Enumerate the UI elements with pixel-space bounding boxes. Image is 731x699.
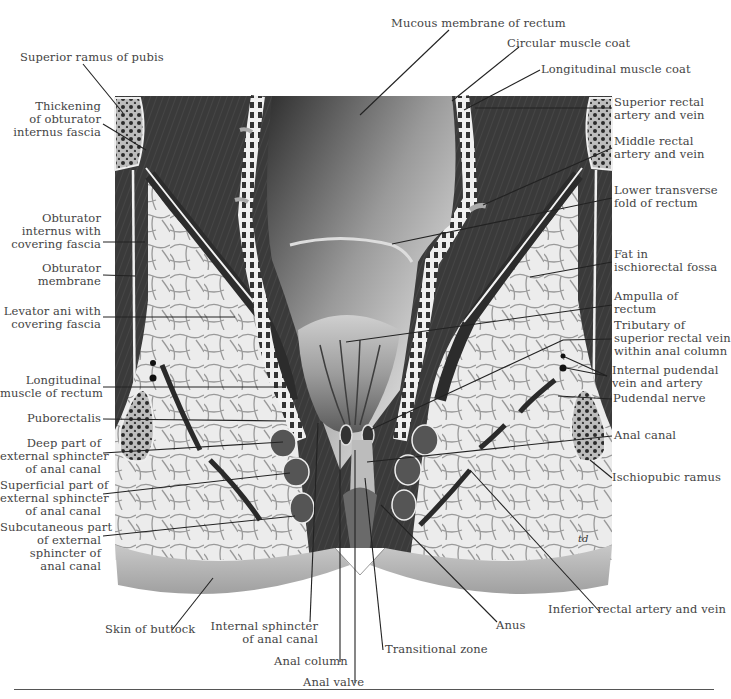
label-skin-of-buttock: Skin of buttock (105, 623, 195, 636)
label-superior-rectal-artery-vein: Superior rectal artery and vein (614, 96, 705, 122)
label-line: Anal canal (614, 429, 676, 442)
label-line: covering fascia (0, 238, 101, 251)
label-line: Puborectalis (0, 412, 101, 425)
label-line: of anal canal (0, 463, 101, 476)
label-line: artery and vein (614, 109, 705, 122)
label-ampulla-of-rectum: Ampulla of rectum (614, 290, 678, 316)
left-pudendal-vessel-1 (150, 360, 156, 366)
label-ischiopubic-ramus: Ischiopubic ramus (612, 471, 721, 484)
label-line: Longitudinal muscle coat (541, 63, 691, 76)
label-line: Circular muscle coat (507, 37, 630, 50)
label-line: Superior ramus of pubis (20, 51, 230, 64)
left-anal-column-vein (340, 425, 352, 445)
label-line: Inferior rectal artery and vein (548, 603, 726, 616)
label-puborectalis: Puborectalis (0, 412, 101, 425)
label-line: anal canal (0, 560, 101, 573)
right-pudendal-vessel-2 (560, 365, 567, 372)
label-levator-ani: Levator ani with covering fascia (0, 305, 101, 331)
label-internal-sphincter: Internal sphincter of anal canal (210, 620, 318, 646)
right-subcutaneous-sphincter (392, 490, 416, 520)
label-anal-canal: Anal canal (614, 429, 676, 442)
label-line: membrane (0, 275, 101, 288)
right-pudendal-vessel-1 (561, 354, 566, 359)
leader-circular-muscle (452, 47, 519, 101)
label-subcutaneous-external-sphincter: Subcutaneous part of external sphincter … (0, 521, 101, 573)
bottom-divider-rule (14, 689, 714, 690)
label-line: Pudendal nerve (613, 392, 706, 405)
label-line: of anal canal (210, 633, 318, 646)
anal-canal (350, 440, 375, 495)
label-line: internus fascia (0, 126, 101, 139)
left-superficial-sphincter (283, 458, 309, 486)
label-mucous-membrane-of-rectum: Mucous membrane of rectum (391, 17, 566, 30)
artist-signature: td (578, 533, 588, 544)
left-subcutaneous-sphincter (290, 493, 314, 523)
label-lower-transverse-fold: Lower transverse fold of rectum (614, 184, 718, 210)
label-internal-pudendal-vein-artery: Internal pudendal vein and artery (612, 364, 718, 390)
label-line: Mucous membrane of rectum (391, 17, 566, 30)
label-obturator-internus: Obturator internus with covering fascia (0, 212, 101, 251)
label-line: ischiorectal fossa (614, 261, 717, 274)
label-line: fold of rectum (614, 197, 718, 210)
label-line: Transitional zone (385, 643, 488, 656)
label-line: artery and vein (614, 148, 705, 161)
right-deep-sphincter (412, 425, 438, 455)
left-pudendal-vessel-2 (150, 375, 157, 382)
label-line: rectum (614, 303, 678, 316)
label-line: of anal canal (0, 505, 101, 518)
label-transitional-zone: Transitional zone (385, 643, 488, 656)
label-anal-valve: Anal valve (303, 676, 364, 689)
label-anus: Anus (496, 619, 525, 632)
label-deep-external-sphincter: Deep part of external sphincter of anal … (0, 437, 101, 476)
label-longitudinal-muscle-coat: Longitudinal muscle coat (541, 63, 691, 76)
right-superior-pubic-ramus (586, 98, 612, 170)
label-fat-ischiorectal-fossa: Fat in ischiorectal fossa (614, 248, 717, 274)
label-superior-ramus-of-pubis: Superior ramus of pubis (20, 51, 230, 64)
label-line: Anal valve (303, 676, 364, 689)
label-middle-rectal-artery-vein: Middle rectal artery and vein (614, 135, 705, 161)
label-line: vein and artery (612, 377, 718, 390)
label-line: within anal column (614, 345, 731, 358)
right-superficial-sphincter (395, 455, 421, 485)
label-line: Anus (496, 619, 525, 632)
label-superficial-external-sphincter: Superficial part of external sphincter o… (0, 479, 101, 518)
label-line: Ischiopubic ramus (612, 471, 721, 484)
label-anal-column: Anal column (274, 655, 348, 668)
label-line: Anal column (274, 655, 348, 668)
label-tributary-superior-rectal-vein: Tributary of superior rectal vein within… (614, 319, 731, 358)
label-thickening-obturator-fascia: Thickening of obturator internus fascia (0, 100, 101, 139)
label-inferior-rectal-artery-vein: Inferior rectal artery and vein (548, 603, 726, 616)
label-longitudinal-muscle-of-rectum: Longitudinal muscle of rectum (0, 374, 101, 400)
label-line: Skin of buttock (105, 623, 195, 636)
label-line: muscle of rectum (0, 387, 101, 400)
label-line: covering fascia (0, 318, 101, 331)
label-obturator-membrane: Obturator membrane (0, 262, 101, 288)
label-circular-muscle-coat: Circular muscle coat (507, 37, 630, 50)
label-pudendal-nerve: Pudendal nerve (613, 392, 706, 405)
